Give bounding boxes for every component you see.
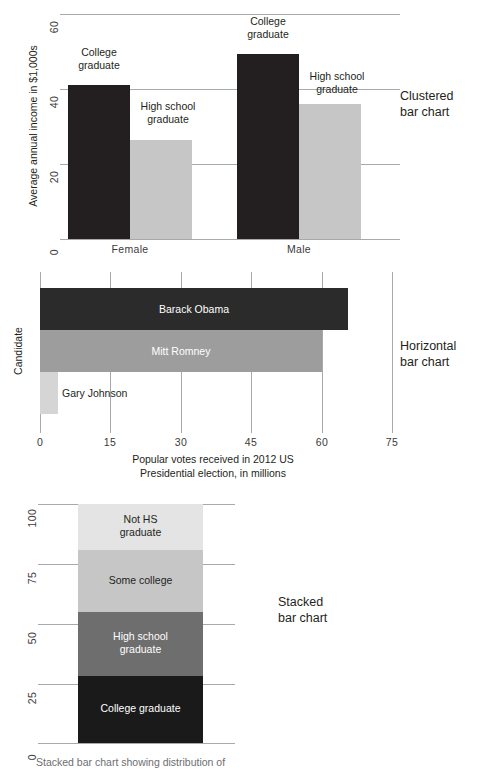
label-male-college-graduate: College graduate: [230, 15, 306, 41]
label-female-high-school-graduate: High school graduate: [125, 100, 211, 126]
bar-female-high-school-graduate: [130, 140, 192, 239]
ytick-20: 20: [48, 165, 60, 189]
ytick-25: 25: [26, 685, 38, 711]
ytick-40: 40: [48, 90, 60, 114]
xtick-female: Female: [90, 243, 170, 255]
label-mitt-romney: Mitt Romney: [40, 345, 322, 358]
xtick-45: 45: [231, 436, 271, 448]
xtick-male: Male: [259, 243, 339, 255]
ytick-50: 50: [26, 625, 38, 651]
label-male-high-school-graduate: High school graduate: [294, 70, 380, 96]
bar-gary-johnson: [40, 372, 58, 414]
label-college-graduate: College graduate: [78, 702, 203, 715]
xtick-75: 75: [372, 436, 412, 448]
caption-stacked-bar-chart: Stacked bar chart: [278, 594, 356, 626]
stacked-bar-chart-panel: 100 75 50 25 0 Not HS graduate Some coll…: [0, 480, 481, 763]
bar-male-high-school-graduate: [299, 104, 361, 239]
xtick-15: 15: [90, 436, 130, 448]
horizontal-bar-chart-panel: Barack Obama Mitt Romney Gary Johnson 0 …: [0, 260, 481, 480]
stacked-chart-footnote: Stacked bar chart showing distribution o…: [36, 756, 225, 768]
clustered-bar-chart-panel: 60 40 20 0 Average annual income in $1,0…: [0, 0, 481, 260]
caption-horizontal-bar-chart: Horizontal bar chart: [400, 338, 478, 370]
label-not-hs-graduate: Not HS graduate: [78, 513, 203, 539]
bar-male-college-graduate: [237, 54, 299, 239]
gridline-y-0: [38, 743, 235, 744]
ytick-60: 60: [48, 15, 60, 39]
ytick-100: 100: [26, 505, 38, 531]
label-barack-obama: Barack Obama: [40, 303, 348, 316]
label-gary-johnson: Gary Johnson: [62, 387, 182, 400]
label-high-school-graduate: High school graduate: [78, 630, 203, 656]
xtick-60: 60: [302, 436, 342, 448]
ytick-75: 75: [26, 565, 38, 591]
caption-clustered-bar-chart: Clustered bar chart: [400, 88, 478, 120]
bar-female-college-graduate: [68, 85, 130, 239]
xtick-0: 0: [20, 436, 60, 448]
xtick-30: 30: [161, 436, 201, 448]
y-axis-title-candidate: Candidate: [12, 311, 24, 391]
y-axis-title: Average annual income in $1,000s: [27, 26, 39, 226]
label-some-college: Some college: [78, 574, 203, 587]
gridline-x-75: [392, 272, 393, 433]
gridline-y-0: [60, 239, 400, 240]
x-axis-title-popular-votes: Popular votes received in 2012 US Presid…: [78, 452, 348, 480]
label-female-college-graduate: College graduate: [61, 46, 137, 72]
